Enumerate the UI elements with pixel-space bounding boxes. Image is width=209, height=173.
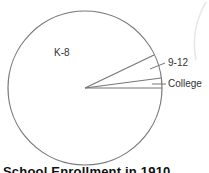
slice-label-hs: 9-12 bbox=[168, 58, 188, 68]
slice-label-k8: K-8 bbox=[54, 48, 70, 58]
chart-title: School Enrollment in 1910 bbox=[3, 164, 171, 173]
slice-label-college: College bbox=[168, 79, 202, 89]
decorative-arc bbox=[194, 2, 206, 60]
